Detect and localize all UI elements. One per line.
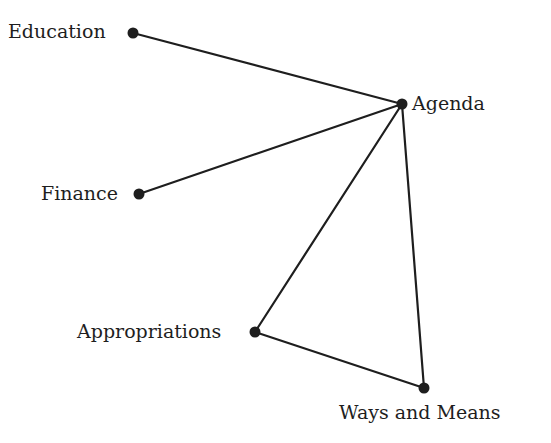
- node-dot-finance: [134, 189, 145, 200]
- edge-ways_and_means-agenda: [402, 104, 424, 388]
- node-label-appropriations: Appropriations: [77, 322, 221, 341]
- node-label-ways_and_means: Ways and Means: [339, 403, 501, 422]
- edge-finance-agenda: [139, 104, 402, 194]
- committee-network-diagram: EducationAgendaFinanceAppropriationsWays…: [0, 0, 551, 443]
- node-dot-agenda: [397, 99, 408, 110]
- node-label-agenda: Agenda: [412, 94, 485, 113]
- node-label-finance: Finance: [41, 184, 118, 203]
- node-dot-ways_and_means: [419, 383, 430, 394]
- edge-appropriations-agenda: [255, 104, 402, 332]
- edges-layer: [0, 0, 551, 443]
- node-dot-education: [128, 28, 139, 39]
- edge-education-agenda: [133, 33, 402, 104]
- node-dot-appropriations: [250, 327, 261, 338]
- edge-appropriations-ways_and_means: [255, 332, 424, 388]
- node-label-education: Education: [8, 22, 106, 41]
